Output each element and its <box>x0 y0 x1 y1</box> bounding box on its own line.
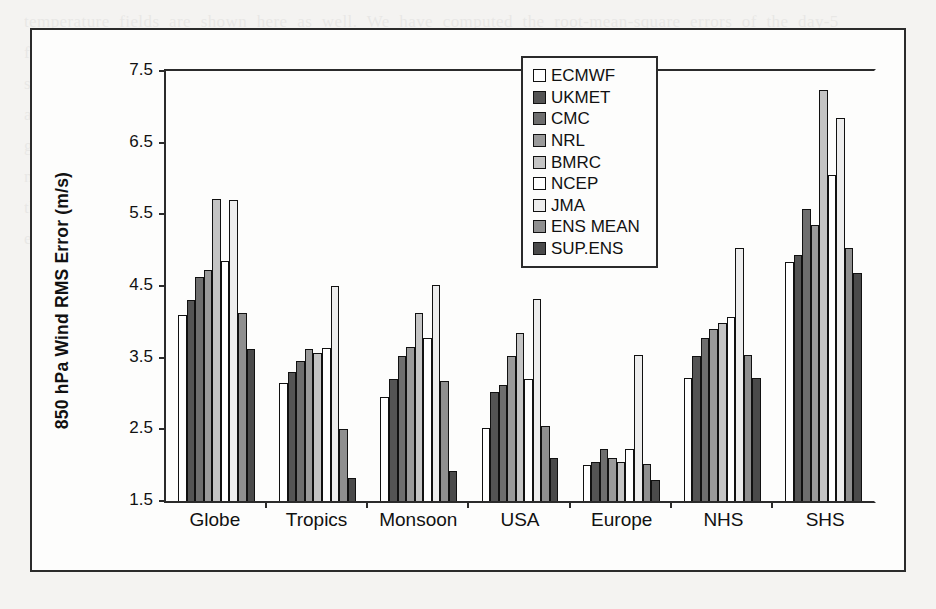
bar <box>634 355 643 501</box>
bar <box>533 299 542 501</box>
bar <box>507 356 516 501</box>
y-tick-mark <box>159 142 166 144</box>
legend-item: JMA <box>533 195 640 217</box>
group-separator-tick <box>670 501 672 508</box>
bar <box>348 478 357 501</box>
legend-label: BMRC <box>551 154 601 171</box>
bar-group <box>166 71 267 501</box>
legend-item: NRL <box>533 130 640 152</box>
x-axis-label: Globe <box>164 509 266 531</box>
y-tick-label: 5.5 <box>122 203 159 223</box>
bar <box>583 465 592 501</box>
y-tick-label: 1.5 <box>122 490 159 510</box>
legend-item: NCEP <box>533 173 640 195</box>
y-tick-mark <box>159 357 166 359</box>
y-tick-label: 7.5 <box>122 60 159 80</box>
legend-swatch <box>533 220 546 233</box>
bar <box>380 397 389 501</box>
legend-label: UKMET <box>551 89 611 106</box>
x-axis-label: NHS <box>673 509 775 531</box>
bar <box>591 462 600 501</box>
bar <box>692 356 701 501</box>
bar-group-bars <box>178 71 255 501</box>
bar <box>288 372 297 501</box>
legend-item: BMRC <box>533 151 640 173</box>
bar-group <box>773 71 874 501</box>
legend-swatch <box>533 112 546 125</box>
bar <box>651 480 660 502</box>
bar <box>785 262 794 501</box>
legend-item: SUP.ENS <box>533 238 640 260</box>
legend-swatch <box>533 177 546 190</box>
legend-label: ECMWF <box>551 67 615 84</box>
legend-swatch <box>533 242 546 255</box>
bar-group-bars <box>684 71 761 501</box>
bar <box>836 118 845 501</box>
bar <box>524 379 533 501</box>
bar <box>204 270 213 501</box>
y-tick-label: 6.5 <box>122 132 159 152</box>
bar <box>195 277 204 501</box>
bar <box>643 464 652 501</box>
y-tick-mark <box>159 500 166 502</box>
legend-label: CMC <box>551 110 590 127</box>
bar <box>423 338 432 501</box>
bar-group <box>672 71 773 501</box>
bar <box>794 255 803 501</box>
bar <box>432 285 441 501</box>
bar <box>178 315 187 501</box>
bar-group-bars <box>279 71 356 501</box>
group-separator-tick <box>467 501 469 508</box>
group-separator-tick <box>569 501 571 508</box>
bar <box>684 378 693 501</box>
x-axis-label: Europe <box>571 509 673 531</box>
bar <box>625 449 634 501</box>
bar <box>853 273 862 501</box>
bar <box>727 317 736 501</box>
bar <box>449 471 458 501</box>
bar <box>744 355 753 501</box>
legend-item: UKMET <box>533 87 640 109</box>
bar <box>440 381 449 501</box>
bar <box>313 353 322 501</box>
bar <box>389 379 398 501</box>
legend-label: ENS MEAN <box>551 218 640 235</box>
bar <box>247 349 256 501</box>
bar <box>296 361 305 501</box>
legend-swatch <box>533 69 546 82</box>
legend-label: JMA <box>551 197 585 214</box>
bar <box>322 348 331 501</box>
bar <box>752 378 761 501</box>
y-tick-mark <box>159 70 166 72</box>
bar <box>229 200 238 501</box>
group-separator-tick <box>265 501 267 508</box>
bar <box>709 329 718 501</box>
legend-label: NRL <box>551 132 585 149</box>
figure-frame: 850 hPa Wind RMS Error (m/s) 1.52.53.54.… <box>30 28 906 572</box>
legend-swatch <box>533 134 546 147</box>
bar <box>600 449 609 501</box>
bar <box>802 209 811 501</box>
bar <box>701 338 710 501</box>
bar <box>499 385 508 501</box>
bar <box>811 225 820 501</box>
bar-groups <box>166 71 874 501</box>
bar <box>398 356 407 501</box>
bar <box>516 333 525 501</box>
bar <box>415 313 424 501</box>
bar <box>406 347 415 501</box>
legend-item: CMC <box>533 108 640 130</box>
plot-area: 1.52.53.54.55.56.57.5 <box>164 69 876 503</box>
bar <box>718 323 727 501</box>
x-axis-label: USA <box>469 509 571 531</box>
bar <box>550 458 559 501</box>
legend-rows: ECMWFUKMETCMCNRLBMRCNCEPJMAENS MEANSUP.E… <box>533 65 640 259</box>
x-axis-label: Monsoon <box>367 509 469 531</box>
legend-label: NCEP <box>551 175 598 192</box>
bar <box>331 286 340 501</box>
bar <box>339 429 348 501</box>
bar-group-bars <box>785 71 862 501</box>
y-axis-title-text: 850 hPa Wind RMS Error (m/s) <box>53 171 74 428</box>
y-tick-label: 3.5 <box>122 347 159 367</box>
legend-swatch <box>533 199 546 212</box>
